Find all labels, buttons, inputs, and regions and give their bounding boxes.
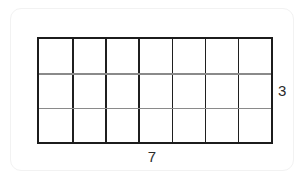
grid-rectangle (37, 37, 273, 144)
grid-vertical-line-1 (72, 39, 73, 142)
width-dimension-label: 7 (0, 149, 304, 164)
grid-vertical-line-5 (205, 39, 206, 142)
grid-vertical-line-2 (105, 39, 106, 142)
rectangle-area-model: 3 7 (0, 0, 304, 179)
grid-lines (39, 39, 271, 142)
grid-horizontal-line-2 (39, 108, 271, 109)
height-dimension-label: 3 (278, 83, 286, 98)
grid-vertical-line-6 (238, 39, 239, 142)
grid-horizontal-line-1 (39, 73, 271, 74)
grid-vertical-line-4 (172, 39, 173, 142)
grid-vertical-line-3 (138, 39, 139, 142)
